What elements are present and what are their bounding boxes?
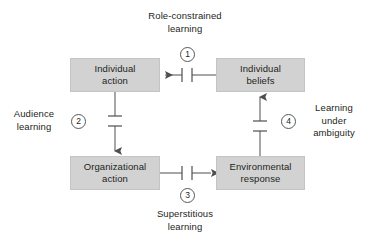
node-label-line: Individual bbox=[94, 63, 135, 76]
edge-label-line: Learning bbox=[303, 102, 365, 115]
node-label-line: action bbox=[102, 75, 128, 88]
node-organizational-action: Organizational action bbox=[70, 156, 160, 190]
node-label-line: Individual bbox=[240, 63, 281, 76]
node-individual-beliefs: Individual beliefs bbox=[216, 58, 305, 92]
edge-label-line: learning bbox=[2, 121, 66, 134]
edge-marker-number: 3 bbox=[185, 191, 190, 200]
node-label-line: beliefs bbox=[246, 75, 274, 88]
node-environmental-response: Environmental response bbox=[216, 156, 305, 190]
edge-marker-4: 4 bbox=[281, 114, 296, 129]
edge-marker-number: 2 bbox=[76, 117, 81, 126]
edge-label-line: Superstitious bbox=[130, 208, 240, 221]
edge-marker-2: 2 bbox=[71, 114, 86, 129]
edge-label-line: Audience bbox=[2, 108, 66, 121]
edge-2-connector bbox=[108, 92, 122, 151]
node-label-line: response bbox=[241, 173, 281, 186]
edge-label-learning-under-ambiguity: Learning under ambiguity bbox=[303, 102, 365, 140]
edge-label-line: learning bbox=[128, 23, 242, 36]
edge-label-line: Role-constrained bbox=[128, 10, 242, 23]
edge-1-connector bbox=[165, 68, 216, 82]
edge-label-role-constrained-learning: Role-constrained learning bbox=[128, 10, 242, 35]
edge-3-connector bbox=[160, 166, 211, 180]
edge-marker-1: 1 bbox=[180, 47, 195, 62]
node-label-line: Environmental bbox=[229, 161, 291, 174]
edge-label-audience-learning: Audience learning bbox=[2, 108, 66, 133]
edge-4-connector bbox=[253, 97, 267, 156]
edge-marker-number: 1 bbox=[185, 50, 190, 59]
node-label-line: Organizational bbox=[84, 161, 147, 174]
edge-label-line: learning bbox=[130, 221, 240, 234]
edge-label-line: under bbox=[303, 115, 365, 128]
edge-marker-3: 3 bbox=[180, 188, 195, 203]
edge-label-line: ambiguity bbox=[303, 127, 365, 140]
node-label-line: action bbox=[102, 173, 128, 186]
edge-marker-number: 4 bbox=[286, 117, 291, 126]
edge-label-superstitious-learning: Superstitious learning bbox=[130, 208, 240, 233]
node-individual-action: Individual action bbox=[70, 58, 160, 92]
learning-cycle-diagram: Individual action Individual beliefs Org… bbox=[0, 0, 367, 247]
